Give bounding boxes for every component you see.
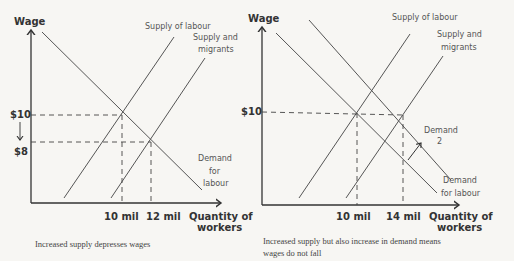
- right-demand2-label-1: Demand: [424, 126, 458, 135]
- left-tick-8: $8: [14, 146, 28, 157]
- left-ylabel: Wage: [14, 16, 46, 27]
- right-demand-label-2: for labour: [441, 189, 481, 198]
- left-demand-label-3: labour: [203, 179, 229, 188]
- right-supply-label: Supply of labour: [392, 13, 458, 22]
- left-tick-10mil: 10 mil: [104, 211, 139, 222]
- right-supply-line: [299, 34, 410, 198]
- right-migrants-label-1: Supply and: [437, 30, 482, 39]
- left-tick-12mil: 12 mil: [146, 211, 181, 222]
- left-caption: Increased supply depresses wages: [35, 239, 150, 249]
- left-demand-label-2: for: [209, 167, 221, 176]
- left-xlabel-2: workers: [197, 222, 242, 233]
- right-tick-10: $10: [241, 106, 262, 117]
- left-supply-line: [64, 37, 174, 198]
- right-xlabel-2: workers: [437, 222, 482, 233]
- right-caption-1: Increased supply but also increase in de…: [263, 236, 441, 246]
- left-supply-migrants-line: [111, 58, 205, 198]
- left-tick-10: $10: [10, 109, 31, 120]
- right-demand-label-1: Demand: [443, 176, 477, 185]
- right-migrants-label-2: migrants: [441, 43, 477, 52]
- right-ylabel: Wage: [248, 13, 280, 24]
- left-demand-label-1: Demand: [198, 154, 232, 163]
- right-shift-arrow-icon: [408, 143, 421, 160]
- right-xlabel-1: Quantity of: [429, 211, 493, 222]
- left-chart: Wage $10 $8 10 mil 12 mil Quantity of wo…: [10, 16, 253, 249]
- left-xlabel-1: Quantity of: [189, 211, 253, 222]
- left-migrants-label-2: migrants: [198, 45, 234, 54]
- right-tick-14mil: 14 mil: [386, 211, 421, 222]
- right-dash-10: [262, 112, 403, 115]
- right-demand2-label-2: 2: [437, 137, 442, 146]
- right-caption-2: wages do not fall: [263, 248, 322, 258]
- left-demand-line: [42, 32, 202, 190]
- right-chart: Wage $10 10 mil 14 mil Quantity of worke…: [241, 13, 493, 258]
- figure: Wage $10 $8 10 mil 12 mil Quantity of wo…: [0, 0, 514, 261]
- right-demand2-line: [309, 20, 451, 180]
- left-supply-label: Supply of labour: [145, 22, 211, 31]
- right-tick-10mil: 10 mil: [336, 211, 371, 222]
- left-migrants-label-1: Supply and: [193, 33, 238, 42]
